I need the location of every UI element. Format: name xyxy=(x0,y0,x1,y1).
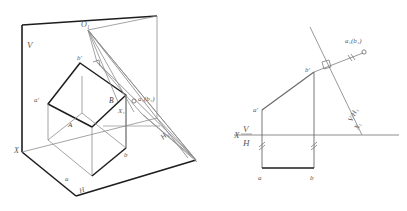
label-b-prime-pictorial: b' xyxy=(77,54,83,62)
label-v-plane: V xyxy=(27,40,34,50)
label-x-axis: X xyxy=(13,146,20,155)
point-marker-a1b1-pictorial xyxy=(132,99,136,103)
label-b-low-pictorial: b xyxy=(124,151,128,159)
label-x1-ortho: X₁ xyxy=(352,121,363,131)
label-o1-center: O₁ xyxy=(81,20,90,29)
label-point-A: A xyxy=(67,121,73,129)
label-a-low-pictorial: a xyxy=(65,175,69,183)
label-h-plane-ortho: H xyxy=(242,138,250,148)
label-b-low-ortho: b xyxy=(310,174,314,182)
label-b-prime-ortho: b' xyxy=(305,66,311,74)
label-a-low-ortho: a xyxy=(258,174,262,182)
label-a1b1-pictorial: a₁(b₁) xyxy=(138,95,155,103)
label-a1b1-ortho: a₁(b₁) xyxy=(345,37,362,45)
label-point-B: B xyxy=(109,96,114,105)
pictorial-panel: V H X O₁ b' a' A B a b X₁ H₁ a₁(b₁) xyxy=(13,16,197,196)
label-a-prime-pictorial: a' xyxy=(34,96,40,104)
front-view-line-ab xyxy=(262,72,314,110)
label-v-plane-ortho: V xyxy=(243,124,250,134)
technical-drawing-svg: V H X O₁ b' a' A B a b X₁ H₁ a₁(b₁) xyxy=(0,0,407,211)
label-x1-axis-pictorial: X₁ xyxy=(117,107,125,115)
solid-prism xyxy=(48,63,126,176)
point-marker-a1b1-ortho xyxy=(362,50,366,54)
orthographic-panel: X V H a' b' a b a₁(b₁) V/H₁ X₁ xyxy=(233,27,399,182)
projection-rays xyxy=(88,16,196,160)
label-vh1-ortho: V/H₁ xyxy=(347,107,360,123)
right-angle-mark-pictorial xyxy=(93,60,100,66)
auxiliary-projector-a1b1 xyxy=(314,53,363,72)
label-x-axis-ortho: X xyxy=(233,130,240,140)
figure-canvas: V H X O₁ b' a' A B a b X₁ H₁ a₁(b₁) xyxy=(0,0,407,211)
label-a-prime-ortho: a' xyxy=(253,106,259,114)
